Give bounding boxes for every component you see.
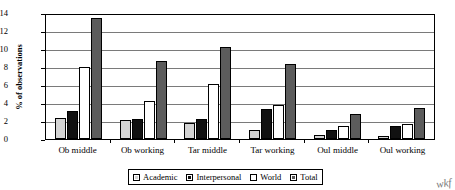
y-axis-tick-label: 14 (0, 9, 8, 18)
y-axis-tick-label: 6 (0, 81, 8, 90)
bar[interactable] (378, 136, 389, 139)
bar-group (111, 14, 176, 139)
bar[interactable] (390, 126, 401, 139)
bar[interactable] (156, 61, 167, 139)
legend-swatch-icon (250, 174, 257, 181)
x-axis-labels: Ob middleOb workingTar middleTar working… (45, 145, 435, 155)
legend-item[interactable]: Interpersonal (186, 172, 241, 182)
bar[interactable] (132, 119, 143, 139)
bar[interactable] (326, 130, 337, 139)
y-axis-tick-label: 4 (0, 99, 8, 108)
x-axis-tick-mark (110, 139, 111, 143)
legend-swatch-icon (290, 174, 297, 181)
x-axis-tick-mark (368, 139, 369, 143)
y-axis-tick-label: 0 (0, 135, 8, 144)
legend: AcademicInterpersonalWorldTotal (128, 169, 323, 185)
x-axis-label: Tar middle (175, 145, 240, 155)
bar[interactable] (196, 119, 207, 139)
y-axis-tick-label: 8 (0, 63, 8, 72)
legend-swatch-icon (186, 174, 193, 181)
y-axis-tick-mark (41, 140, 45, 141)
bar-group (46, 14, 111, 139)
bar[interactable] (220, 47, 231, 139)
bar[interactable] (285, 64, 296, 139)
y-axis-tick-label: 10 (0, 45, 8, 54)
legend-item[interactable]: Total (290, 172, 317, 182)
y-axis-tick-label: 12 (0, 27, 8, 36)
x-axis-label: Tar working (240, 145, 305, 155)
x-axis-label: Ob middle (45, 145, 110, 155)
bar-group (369, 14, 434, 139)
legend-item[interactable]: World (250, 172, 281, 182)
bar[interactable] (184, 123, 195, 139)
bar-group (240, 14, 305, 139)
x-axis-tick-mark (239, 139, 240, 143)
x-axis-tick-mark (304, 139, 305, 143)
bar-groups (46, 14, 434, 139)
legend-label: World (260, 172, 281, 182)
bar[interactable] (91, 18, 102, 139)
bar[interactable] (249, 130, 260, 139)
x-axis-label: Oul middle (305, 145, 370, 155)
bar[interactable] (338, 126, 349, 139)
bar[interactable] (414, 108, 425, 139)
legend-label: Academic (143, 172, 177, 182)
bar[interactable] (350, 114, 361, 139)
legend-label: Total (300, 172, 317, 182)
y-axis-title: % of observations (14, 17, 24, 137)
x-axis-tick-mark (174, 139, 175, 143)
legend-item[interactable]: Academic (133, 172, 177, 182)
x-axis-label: Ob working (110, 145, 175, 155)
bar[interactable] (55, 118, 66, 139)
bar[interactable] (402, 124, 413, 139)
handwritten-mark: wkf (435, 176, 452, 190)
bar-group (175, 14, 240, 139)
legend-swatch-icon (133, 174, 140, 181)
legend-label: Interpersonal (196, 172, 241, 182)
y-axis-tick-label: 2 (0, 117, 8, 126)
bar[interactable] (79, 67, 90, 139)
bar[interactable] (208, 84, 219, 139)
bar[interactable] (67, 111, 78, 139)
plot-area (45, 14, 435, 140)
bar-group (305, 14, 370, 139)
x-axis-label: Oul working (370, 145, 435, 155)
bar[interactable] (120, 120, 131, 139)
bar[interactable] (261, 109, 272, 139)
bar[interactable] (144, 101, 155, 139)
bar[interactable] (314, 135, 325, 139)
bar[interactable] (273, 105, 284, 139)
bar-chart: % of observations 02468101214 Ob middleO… (0, 0, 455, 190)
